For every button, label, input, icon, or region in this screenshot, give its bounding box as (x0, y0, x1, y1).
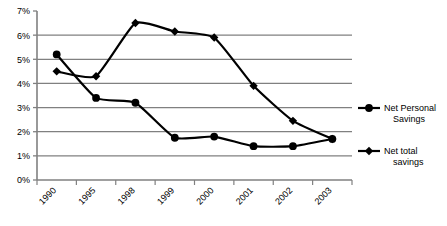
line-chart: 0%1%2%3%4%5%6%7% 19901995199819992000200… (0, 0, 447, 226)
chart-container: 0%1%2%3%4%5%6%7% 19901995199819992000200… (0, 0, 447, 226)
y-tick-label: 7% (17, 6, 30, 16)
data-point-circle (289, 142, 297, 150)
data-point-circle (210, 133, 218, 141)
y-tick-label: 3% (17, 103, 30, 113)
data-point-circle (53, 51, 61, 59)
y-tick-label: 1% (17, 151, 30, 161)
legend-label-line1: Net total (384, 146, 418, 156)
legend-label-line2: savings (393, 157, 424, 167)
legend-label-line2: Savings (393, 114, 426, 124)
data-point-circle (171, 134, 179, 142)
data-point-circle (132, 99, 140, 107)
legend-label-line1: Net Personal (384, 103, 436, 113)
y-tick-label: 4% (17, 79, 30, 89)
data-point-circle (365, 104, 373, 112)
y-tick-label: 0% (17, 175, 30, 185)
y-tick-label: 5% (17, 55, 30, 65)
chart-background (0, 0, 447, 226)
data-point-circle (92, 94, 100, 102)
y-tick-label: 2% (17, 127, 30, 137)
y-tick-label: 6% (17, 31, 30, 41)
data-point-circle (250, 142, 258, 150)
